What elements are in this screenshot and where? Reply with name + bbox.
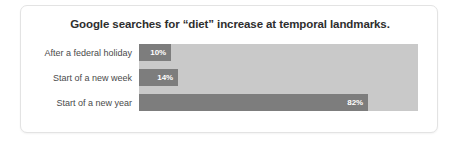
bar-category-label: Start of a new week — [35, 73, 139, 83]
bar-track: 14% — [139, 69, 418, 86]
bar-row: Start of a new week 14% — [35, 69, 425, 86]
bar-track: 82% — [139, 94, 418, 111]
chart-title: Google searches for “diet” increase at t… — [21, 18, 439, 30]
bar-value-label: 10% — [150, 48, 171, 57]
bar-category-label: After a federal holiday — [35, 48, 139, 58]
bar-value-label: 14% — [157, 73, 178, 82]
chart-plot-area: After a federal holiday 10% Start of a n… — [35, 38, 425, 119]
bar-row: After a federal holiday 10% — [35, 44, 425, 61]
chart-card: Google searches for “diet” increase at t… — [20, 5, 438, 133]
bar-row: Start of a new year 82% — [35, 94, 425, 111]
bar-value-label: 82% — [347, 98, 368, 107]
bar-category-label: Start of a new year — [35, 98, 139, 108]
bar: 82% — [139, 94, 368, 111]
screenshot-root: Google searches for “diet” increase at t… — [0, 0, 455, 141]
bar: 10% — [139, 44, 171, 61]
bar-track: 10% — [139, 44, 418, 61]
bar: 14% — [139, 69, 178, 86]
